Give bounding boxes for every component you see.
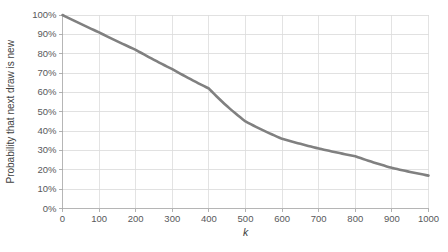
svg-text:40%: 40% [37,125,57,136]
svg-text:50%: 50% [37,106,57,117]
svg-text:70%: 70% [37,67,57,78]
svg-text:30%: 30% [37,144,57,155]
svg-text:700: 700 [311,213,327,224]
svg-text:80%: 80% [37,48,57,59]
line-chart: 0%10%20%30%40%50%60%70%80%90%100% 010020… [0,0,448,252]
svg-text:20%: 20% [37,164,57,175]
svg-text:200: 200 [128,213,144,224]
svg-text:600: 600 [274,213,290,224]
svg-text:900: 900 [384,213,400,224]
chart-container: 0%10%20%30%40%50%60%70%80%90%100% 010020… [0,0,448,252]
y-axis-tickmarks [59,15,63,209]
svg-text:0: 0 [60,213,65,224]
x-axis-title: k [243,226,249,238]
x-axis-tick-labels: 01002003004005006007008009001000 [60,213,439,224]
svg-text:1000: 1000 [418,213,439,224]
svg-text:90%: 90% [37,28,57,39]
svg-text:100: 100 [91,213,107,224]
svg-text:300: 300 [164,213,180,224]
y-axis-tick-labels: 0%10%20%30%40%50%60%70%80%90%100% [32,9,57,214]
svg-text:400: 400 [201,213,217,224]
svg-text:500: 500 [238,213,254,224]
svg-text:800: 800 [347,213,363,224]
svg-text:10%: 10% [37,183,57,194]
x-axis-tickmarks [63,209,429,213]
y-axis-title: Probability that next draw is new [5,39,16,183]
svg-text:60%: 60% [37,86,57,97]
svg-text:0%: 0% [43,203,57,214]
svg-text:100%: 100% [32,9,57,20]
